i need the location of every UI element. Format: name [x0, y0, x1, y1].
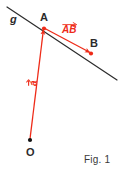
figure-caption: Fig. 1 — [84, 155, 110, 165]
point-a-dot — [42, 26, 46, 30]
figure-vector-graphics — [0, 0, 120, 175]
point-o-dot — [28, 138, 32, 142]
label-point-a: A — [40, 12, 48, 23]
label-point-b: B — [90, 38, 98, 49]
point-b-dot — [89, 51, 93, 55]
label-point-o: O — [26, 147, 35, 158]
line-g — [7, 7, 117, 80]
vector-ab-label-text: AB — [62, 24, 76, 35]
label-line-g: g — [10, 14, 17, 25]
vector-ab-text: AB — [62, 22, 76, 35]
vector-a-label-text: a — [28, 80, 39, 86]
label-vector-a: a — [24, 80, 40, 86]
vector-a-text: a — [26, 80, 39, 86]
label-vector-ab: AB — [62, 20, 76, 36]
figure-canvas: g A B O AB a Fig — [0, 0, 120, 175]
